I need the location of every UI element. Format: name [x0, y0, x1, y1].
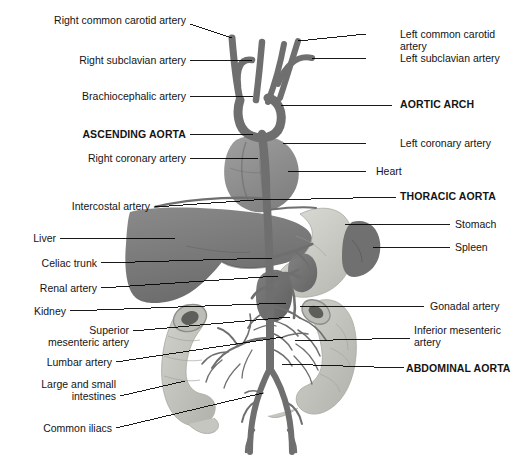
- label-kidney: Kidney: [21, 305, 66, 317]
- organ-spleen: [342, 221, 380, 277]
- label-right-coronary-artery: Right coronary artery: [24, 152, 186, 164]
- label-stomach: Stomach: [455, 218, 517, 230]
- label-thoracic-aorta: THORACIC AORTA: [400, 190, 520, 202]
- label-aortic-arch: AORTIC ARCH: [400, 98, 520, 110]
- label-superior-mesenteric-artery: Superior mesenteric artery: [16, 324, 129, 348]
- label-right-subclavian-artery: Right subclavian artery: [12, 54, 186, 66]
- leader-right-common-carotid-artery: [190, 24, 232, 38]
- label-lumbar-artery: Lumbar artery: [24, 356, 112, 368]
- label-spleen: Spleen: [455, 241, 517, 253]
- label-left-coronary-artery: Left coronary artery: [400, 137, 520, 149]
- label-left-common-carotid-artery: Left common carotid artery: [400, 28, 520, 52]
- label-intercostal-artery: Intercostal artery: [22, 200, 150, 212]
- label-right-common-carotid-artery: Right common carotid artery: [36, 14, 186, 26]
- label-gonadal-artery: Gonadal artery: [430, 300, 520, 312]
- label-renal-artery: Renal artery: [17, 282, 97, 294]
- label-heart: Heart: [376, 165, 436, 177]
- label-brachiocephalic-artery: Brachiocephalic artery: [22, 90, 186, 102]
- label-left-subclavian-artery: Left subclavian artery: [400, 52, 520, 64]
- label-large-and-small-intestines: Large and small intestines: [16, 378, 116, 402]
- label-inferior-mesenteric-artery: Inferior mesenteric artery: [414, 324, 520, 348]
- leader-left-common-carotid-artery: [298, 34, 366, 41]
- label-liver: Liver: [22, 232, 56, 244]
- organ-large-intestine: [162, 300, 219, 434]
- label-ascending-aorta: ASCENDING AORTA: [18, 128, 186, 140]
- label-abdominal-aorta: ABDOMINAL AORTA: [406, 362, 520, 374]
- label-celiac-trunk: Celiac trunk: [17, 257, 97, 269]
- label-common-iliacs: Common iliacs: [22, 422, 112, 434]
- leader-lumbar-artery: [116, 337, 283, 362]
